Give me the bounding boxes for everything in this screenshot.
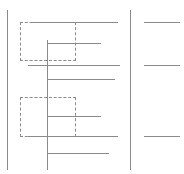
rung-2 [48, 43, 101, 44]
rung-6 [28, 136, 118, 137]
group-box-2 [20, 97, 76, 137]
rung-4 [47, 79, 115, 80]
rung-3 [28, 65, 120, 66]
rung-1 [30, 22, 118, 23]
right-line-2 [144, 65, 180, 66]
right-line-1 [144, 22, 180, 23]
group-box-1 [20, 22, 76, 61]
right-line-3 [144, 136, 180, 137]
right-rail [130, 10, 131, 170]
rung-5 [48, 116, 101, 117]
rung-7 [47, 153, 109, 154]
left-rail [7, 10, 8, 170]
